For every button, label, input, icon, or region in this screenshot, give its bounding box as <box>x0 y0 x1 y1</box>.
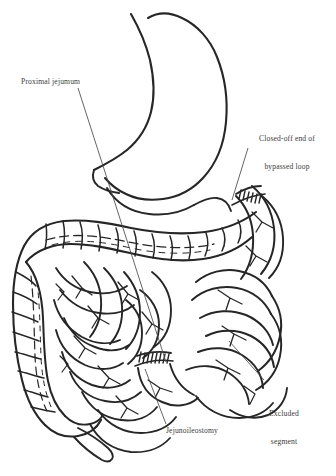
label-excluded-segment: Excluded segment <box>256 390 312 456</box>
label-excluded-segment-line2: segment <box>256 437 312 446</box>
label-closed-off-end: Closed-off end of bypassed loop <box>243 115 331 181</box>
label-jejunoileostomy: Jejunoileostomy <box>166 426 218 435</box>
label-closed-off-end-line2: bypassed loop <box>243 162 331 171</box>
label-closed-off-end-line1: Closed-off end of <box>243 134 331 143</box>
label-excluded-segment-line1: Excluded <box>256 409 312 418</box>
label-proximal-jejunum: Proximal jejumum <box>21 77 80 86</box>
